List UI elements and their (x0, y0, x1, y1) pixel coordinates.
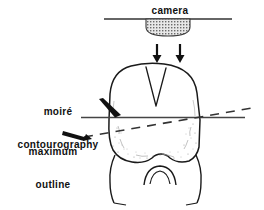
moire-label-line1: moiré (8, 106, 108, 117)
camera-label: camera (120, 5, 220, 16)
tooth-outline (109, 63, 201, 205)
projection-arrow-right (176, 44, 185, 63)
projection-arrow-left (153, 44, 162, 63)
maximum-label-line1: maximum (8, 146, 98, 157)
moire-contourography-figure: camera moiré contourography maximum outl… (0, 0, 264, 210)
maximum-label-line2: outline (8, 179, 98, 190)
maximum-outline-label: maximum outline (8, 124, 98, 210)
root-furcation-arch (144, 166, 176, 185)
camera-body (146, 19, 190, 36)
